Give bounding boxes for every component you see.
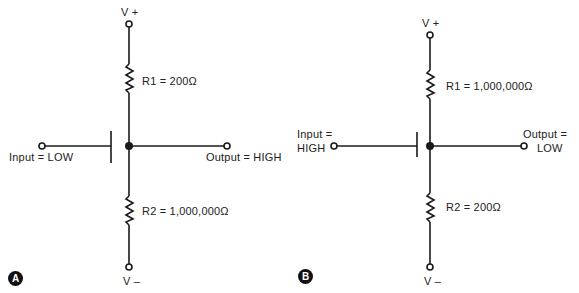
a-input-label: Input = LOW — [9, 151, 73, 163]
b-r1-label: R1 = 1,000,000Ω — [446, 80, 533, 92]
a-vplus-label: V + — [121, 6, 138, 18]
a-output-label: Output = HIGH — [206, 151, 282, 163]
a-r1-label: R1 = 200Ω — [142, 75, 197, 87]
a-output-terminal — [224, 143, 230, 149]
b-output-label-line1: Output = — [523, 128, 567, 140]
a-resistor-r1 — [126, 64, 133, 93]
a-vminus-terminal — [126, 264, 132, 270]
a-r2-label: R2 = 1,000,000Ω — [142, 205, 229, 217]
b-output-terminal — [521, 143, 527, 149]
b-vminus-terminal — [427, 264, 433, 270]
b-input-label-line1: Input = — [297, 128, 332, 140]
b-vplus-terminal — [427, 32, 433, 38]
b-r2-label: R2 = 200Ω — [446, 201, 501, 213]
a-vminus-label: V – — [123, 275, 140, 287]
b-vplus-label: V + — [422, 17, 439, 29]
panel-a-circuit — [39, 21, 230, 270]
b-resistor-r1 — [427, 70, 434, 99]
b-output-label-line2: LOW — [537, 142, 563, 154]
a-resistor-r2 — [126, 196, 133, 225]
b-junction-node — [427, 143, 433, 149]
a-vplus-terminal — [126, 21, 132, 27]
b-input-label-line2: HIGH — [297, 142, 325, 154]
panel-b-circuit — [331, 32, 527, 270]
a-junction-node — [126, 143, 132, 149]
b-vminus-label: V – — [424, 275, 441, 287]
a-input-terminal — [39, 143, 45, 149]
panel-b-badge: B — [298, 269, 313, 284]
b-input-terminal — [331, 143, 337, 149]
circuit-diagram — [0, 0, 579, 293]
panel-a-badge: A — [8, 271, 23, 286]
b-resistor-r2 — [427, 193, 434, 222]
